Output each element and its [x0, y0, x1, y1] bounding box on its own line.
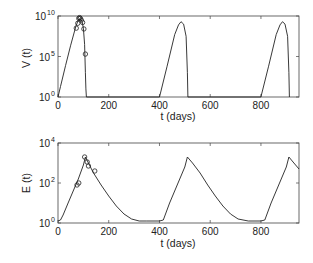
- bottom-data-markers: [75, 155, 97, 187]
- y-tick-exponent: 0: [51, 90, 55, 97]
- top-y-label: V (t): [20, 48, 32, 68]
- bottom-model-line: [58, 157, 299, 221]
- x-tick-label: 600: [202, 100, 219, 111]
- y-tick-exponent: 10: [47, 9, 55, 16]
- x-tick-label: 400: [151, 226, 168, 237]
- bottom-plot: 0200400600800 100102104 t (days) E (t): [20, 136, 299, 249]
- x-tick-label: 0: [55, 100, 61, 111]
- y-tick-label: 10: [39, 218, 51, 229]
- data-point-marker: [83, 52, 87, 56]
- x-tick-label: 800: [253, 100, 270, 111]
- y-tick-label: 10: [39, 92, 51, 103]
- x-tick-label: 200: [100, 226, 117, 237]
- x-tick-label: 800: [253, 226, 270, 237]
- bottom-y-ticks: 100102104: [39, 136, 299, 229]
- top-plot-frame: [58, 16, 299, 97]
- data-point-marker: [93, 169, 97, 173]
- y-tick-label: 10: [35, 11, 47, 22]
- data-point-marker: [74, 26, 78, 30]
- x-tick-label: 0: [55, 226, 61, 237]
- y-tick-label: 10: [39, 178, 51, 189]
- x-tick-label: 200: [100, 100, 117, 111]
- x-tick-label: 600: [202, 226, 219, 237]
- y-tick-exponent: 5: [51, 50, 55, 57]
- y-tick-exponent: 2: [51, 176, 55, 183]
- y-tick-exponent: 4: [51, 136, 55, 143]
- top-y-ticks: 1001051010: [35, 9, 299, 103]
- y-tick-label: 10: [39, 138, 51, 149]
- top-model-line: [58, 19, 289, 97]
- top-plot: 0200400600800 1001051010 t (days) V (t): [20, 9, 299, 122]
- y-tick-label: 10: [39, 52, 51, 63]
- bottom-y-label: E (t): [20, 173, 32, 193]
- y-tick-exponent: 0: [51, 216, 55, 223]
- bottom-x-label: t (days): [160, 237, 195, 249]
- top-data-markers: [74, 15, 88, 56]
- top-x-label: t (days): [160, 110, 195, 122]
- figure: 0200400600800 1001051010 t (days) V (t) …: [0, 0, 313, 263]
